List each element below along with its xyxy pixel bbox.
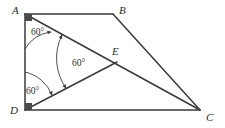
vertex-label-d: D <box>10 105 18 116</box>
right-angle-marker-a <box>25 14 32 21</box>
geometry-figure: ABCDE 60°60°60° <box>0 0 225 128</box>
angle-at-d-label: 60° <box>26 87 39 97</box>
segment-bc <box>113 14 200 110</box>
right-angle-marker-d <box>25 103 32 110</box>
angle-arc-e <box>57 35 66 88</box>
vertex-label-c: C <box>206 112 213 123</box>
figure-canvas <box>0 0 225 128</box>
segments-group <box>25 14 200 110</box>
angle-at-e-label: 60° <box>72 59 85 69</box>
angle-at-a-label: 60° <box>31 28 44 38</box>
vertex-label-e: E <box>112 46 119 57</box>
vertex-label-a: A <box>12 5 19 16</box>
vertex-label-b: B <box>119 5 126 16</box>
